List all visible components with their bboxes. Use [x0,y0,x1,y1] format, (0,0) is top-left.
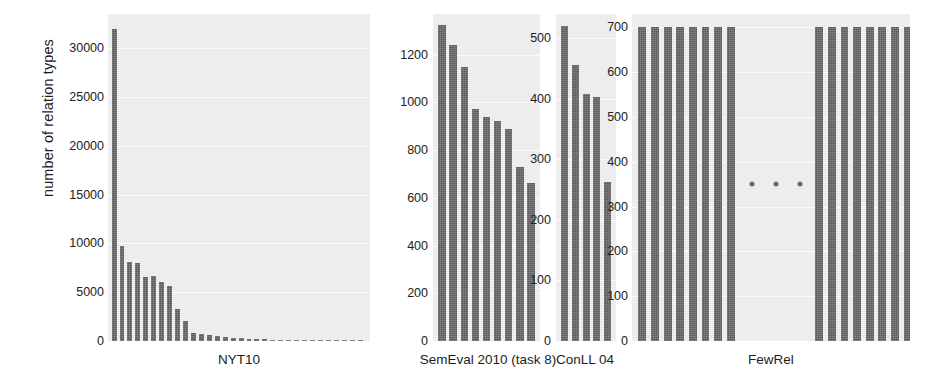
bar [472,109,479,341]
bar [191,333,196,341]
y-axis-tick-label: 1000 [400,96,428,109]
bar [714,27,722,341]
gridline [108,243,370,244]
y-axis-tick-label: 30000 [69,42,104,55]
y-axis-tick-label: 10000 [69,237,104,250]
bar [254,339,259,341]
bar [449,45,456,341]
bar [318,340,323,341]
bar [167,286,172,341]
relation-type-distribution-figure: number of relation types 050001000015000… [0,0,928,389]
y-axis-tick-label: 0 [97,335,104,348]
y-axis-tick-label: 600 [407,192,428,205]
bar [342,340,347,341]
bar [262,339,267,341]
y-axis-1: 020040060080010001200 [368,14,428,341]
bar [828,27,836,341]
bar [461,67,468,341]
y-axis-tick-label: 15000 [69,188,104,201]
y-axis-tick-label: 400 [530,93,551,106]
bar [278,340,283,341]
bar [302,340,307,341]
bar [572,65,579,341]
y-axis-tick-label: 500 [607,111,628,124]
ellipsis-dot [750,182,755,187]
gridline [108,146,370,147]
gridline [108,48,370,49]
plot-area-0 [108,14,370,341]
bar [127,262,132,341]
bar [878,27,886,341]
y-axis-tick-label: 1200 [400,48,428,61]
y-axis-tick-label: 0 [544,335,551,348]
bar [350,340,355,341]
y-axis-2: 0100200300400500 [497,14,551,341]
bar [286,340,291,341]
y-axis-tick-label: 25000 [69,91,104,104]
bar [207,335,212,341]
y-axis-tick-label: 100 [530,274,551,287]
bar [175,309,180,341]
bar [664,27,672,341]
bar [143,277,148,341]
bar [891,27,899,341]
bar [334,340,339,341]
ellipsis-dot [798,182,803,187]
y-axis-tick-label: 300 [530,153,551,166]
bar [239,338,244,341]
bar [231,338,236,342]
y-axis-tick-label: 600 [607,66,628,79]
bar [866,27,874,341]
bar [358,340,363,341]
ellipsis-dot [774,182,779,187]
bar [112,29,117,341]
y-axis-tick-label: 800 [407,144,428,157]
y-axis-tick-label: 100 [607,290,628,303]
bar [638,27,646,341]
y-axis-0: 050001000015000200002500030000 [28,14,104,341]
x-axis-label-3: FewRel [632,352,910,367]
y-axis-tick-label: 200 [530,214,551,227]
bar [120,246,125,341]
y-axis-tick-label: 200 [407,287,428,300]
bar [483,117,490,341]
plot-area-3 [632,14,910,341]
bar [135,263,140,341]
bar [247,339,252,341]
y-axis-tick-label: 0 [621,335,628,348]
y-axis-tick-label: 400 [407,239,428,252]
bar [561,26,568,341]
gridline [108,97,370,98]
bar [904,27,910,341]
bar [151,276,156,341]
gridline [108,195,370,196]
bar [583,94,590,341]
y-axis-tick-label: 300 [607,200,628,213]
y-axis-tick-label: 500 [530,32,551,45]
y-axis-3: 0100200300400500600700 [595,14,628,341]
bar [183,321,188,341]
y-axis-tick-label: 200 [607,245,628,258]
y-axis-tick-label: 700 [607,21,628,34]
bar [853,27,861,341]
bar [326,340,331,341]
bar [199,334,204,341]
x-axis-label-0: NYT10 [108,352,370,367]
y-axis-tick-label: 400 [607,156,628,169]
bar [702,27,710,341]
y-axis-tick-label: 0 [421,335,428,348]
bar [159,282,164,341]
bar [676,27,684,341]
y-axis-tick-label: 5000 [76,286,104,299]
bar [689,27,697,341]
bar [727,27,735,341]
bar [223,337,228,341]
x-axis-label-2: ConLL 04 [520,352,650,367]
bar [841,27,849,341]
bar [215,336,220,341]
bar [294,340,299,341]
bar [438,25,445,341]
bar [651,27,659,341]
bar [815,27,823,341]
bar [270,340,275,341]
